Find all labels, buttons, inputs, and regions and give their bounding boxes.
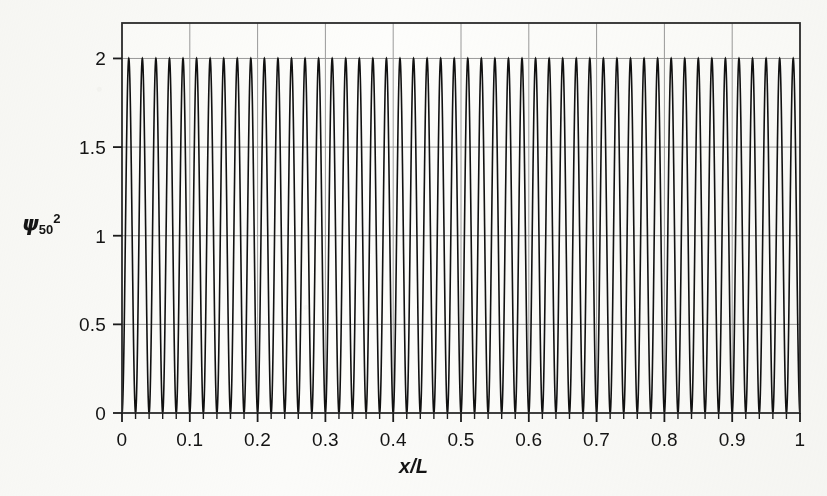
chart-plot <box>0 0 827 496</box>
psi-symbol: ψ <box>22 212 39 236</box>
y-axis-ticks <box>113 58 122 413</box>
y-tick-label: 2 <box>95 49 106 68</box>
x-tick-label: 1 <box>760 430 827 449</box>
psi-subscript: 50 <box>39 222 53 237</box>
y-tick-label: 0.5 <box>79 315 106 334</box>
x-axis-title: x/L <box>0 456 827 476</box>
y-tick-label: 1 <box>95 227 106 246</box>
x-axis-ticks <box>122 413 800 422</box>
y-tick-label: 1.5 <box>79 138 106 157</box>
y-axis-title: ψ502 <box>22 212 60 236</box>
figure-container: 00.511.52 00.10.20.30.40.50.60.70.80.91 … <box>0 0 827 496</box>
y-tick-label: 0 <box>95 404 106 423</box>
psi-superscript: 2 <box>53 211 60 226</box>
